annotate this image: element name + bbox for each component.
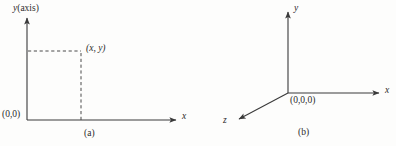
panel-b-origin-label: (0,0,0) xyxy=(290,96,315,106)
panel-a-origin-label: (0,0) xyxy=(2,110,20,120)
panel-a-x-axis-label: x xyxy=(182,112,186,122)
panel-a-caption: (a) xyxy=(84,129,95,139)
panel-b-z-axis-line xyxy=(239,93,288,119)
panel-a-2d-diagram: y(axis) (x, y) (0,0) x (a) xyxy=(0,0,198,146)
panel-b-x-axis-label: x xyxy=(385,86,389,96)
figure-root: y(axis) (x, y) (0,0) x (a) y x z (0,0,0)… xyxy=(0,0,396,146)
panel-b-3d-diagram: y x z (0,0,0) (b) xyxy=(198,0,396,146)
panel-a-drawing xyxy=(0,0,198,146)
panel-b-y-axis-label: y xyxy=(294,4,298,14)
panel-a-point-label: (x, y) xyxy=(86,44,106,54)
panel-b-drawing xyxy=(198,0,396,146)
panel-b-caption: (b) xyxy=(298,128,309,138)
panel-a-y-axis-label: y(axis) xyxy=(13,4,39,14)
panel-b-z-axis-label: z xyxy=(223,116,227,126)
panel-a-y-axis-label-suffix: (axis) xyxy=(17,3,39,13)
